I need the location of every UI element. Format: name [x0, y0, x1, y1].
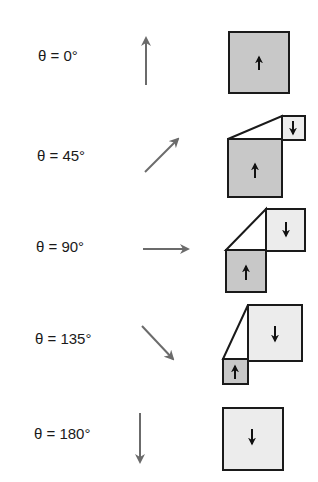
domain-diagram-180	[223, 408, 283, 470]
domain-diagram-90	[226, 209, 305, 292]
domain-wall	[228, 116, 282, 139]
domain-diagram-0	[229, 32, 289, 93]
domain-diagram-45	[228, 116, 305, 197]
diagram-canvas	[0, 0, 318, 482]
field-arrow-135	[142, 326, 173, 359]
domain-diagram-135	[223, 305, 302, 384]
field-arrow-45	[145, 139, 178, 172]
domain-wall	[226, 209, 266, 250]
domain-wall	[223, 305, 248, 359]
